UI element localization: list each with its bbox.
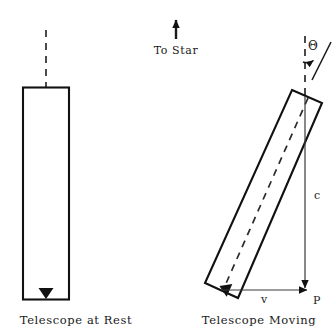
light-speed-label-c: c bbox=[314, 189, 320, 202]
rest-telescope-tube bbox=[23, 88, 69, 300]
to-star-label: To Star bbox=[154, 44, 199, 57]
to-star-indicator: To Star bbox=[154, 20, 199, 57]
point-label-p: P bbox=[313, 294, 321, 307]
theta-angle-arc-icon bbox=[303, 61, 314, 63]
aberration-diagram: To Star Telescope at Rest Θ c bbox=[0, 0, 333, 335]
panel-telescope-at-rest: Telescope at Rest bbox=[20, 30, 132, 327]
velocity-label-v: v bbox=[260, 293, 268, 306]
moving-panel-caption: Telescope Moving bbox=[202, 313, 316, 327]
theta-angle-label: Θ bbox=[308, 39, 318, 53]
rest-panel-caption: Telescope at Rest bbox=[20, 313, 132, 327]
panel-telescope-moving: Θ c v P Telescope Moving bbox=[202, 36, 331, 327]
